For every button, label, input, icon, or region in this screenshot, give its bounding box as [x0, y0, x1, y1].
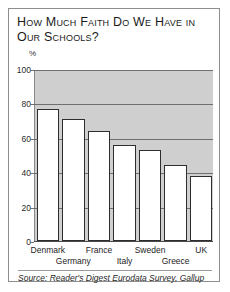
bar-greece — [164, 165, 186, 241]
x-tick-label-italy: Italy — [117, 256, 133, 266]
x-axis-line — [34, 241, 213, 242]
x-tick-label-greece: Greece — [162, 256, 190, 266]
source-note: Source: Reader's Digest Eurodata Survey,… — [18, 273, 216, 283]
y-tick-mark-80 — [30, 104, 34, 105]
bar-uk — [190, 176, 212, 241]
chart-title: How Much Faith Do We Have in Our Schools… — [17, 15, 213, 44]
x-tick-label-germany: Germany — [56, 256, 91, 266]
x-axis-labels: DenmarkGermanyFranceItalySwedenGreeceUK — [34, 245, 220, 271]
bar-series — [35, 70, 213, 241]
x-tick-label-france: France — [86, 245, 112, 255]
y-tick-mark-40 — [30, 173, 34, 174]
y-tick-mark-100 — [30, 70, 34, 71]
y-tick-mark-0 — [30, 242, 34, 243]
y-tick-label-100: 100 — [17, 65, 31, 75]
bar-sweden — [139, 150, 161, 241]
bar-denmark — [37, 109, 59, 241]
y-tick-mark-20 — [30, 208, 34, 209]
x-tick-label-sweden: Sweden — [135, 245, 166, 255]
y-tick-mark-60 — [30, 139, 34, 140]
x-tick-label-denmark: Denmark — [31, 245, 65, 255]
bar-germany — [62, 119, 84, 241]
bar-italy — [113, 145, 135, 241]
x-tick-label-uk: UK — [195, 245, 207, 255]
source-divider — [18, 270, 212, 271]
y-axis-unit-label: % — [29, 49, 36, 58]
bar-france — [88, 131, 110, 241]
chart-card: How Much Faith Do We Have in Our Schools… — [8, 8, 220, 282]
plot-area: 020406080100 — [34, 70, 213, 242]
